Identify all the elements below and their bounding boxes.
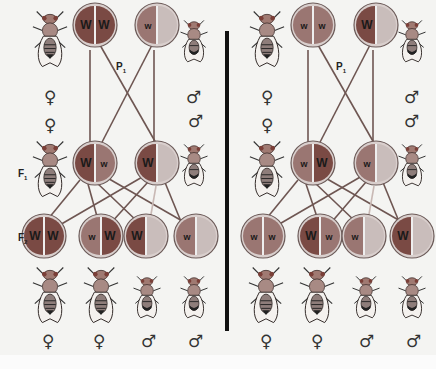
allele-left: w xyxy=(249,232,258,242)
chromosome-pair-right-f1-2: w xyxy=(354,141,398,185)
chromosome-pair-left-f1-2: W xyxy=(135,141,179,185)
chromosome-pair-left-p1-2: w xyxy=(135,3,179,47)
allele-left: W xyxy=(131,229,143,243)
allele-left: w xyxy=(299,21,308,31)
allele-right: W xyxy=(98,18,110,32)
f2-sex-symbol-8: ♂ xyxy=(406,333,421,350)
female-symbol-f1-right: ♀ xyxy=(261,117,273,134)
allele-left: W xyxy=(397,229,409,243)
label-f2: F2 xyxy=(18,232,27,245)
male-symbol-f1-left: ♂ xyxy=(188,113,203,130)
male-symbol-p1-right: ♂ xyxy=(404,89,419,106)
label-f1: F1 xyxy=(18,168,27,181)
allele-right: w xyxy=(267,232,276,242)
reciprocal-cross-diagram: WWwWwWWWwWWwwwWwWwwwWwwW xyxy=(0,0,436,369)
allele-left: W xyxy=(305,229,317,243)
allele-right: W xyxy=(316,156,328,170)
chromosome-pair-right-f2-4: W xyxy=(390,214,434,258)
chromosome-pair-right-f2-1: ww xyxy=(241,214,285,258)
male-symbol-f1-right: ♂ xyxy=(404,113,419,130)
allele-right: w xyxy=(324,232,333,242)
f2-sex-symbol-3: ♂ xyxy=(141,333,156,350)
f2-sex-symbol-2: ♀ xyxy=(93,333,105,350)
allele-left: W xyxy=(361,18,373,32)
chromosome-pair-right-f2-3: w xyxy=(342,214,386,258)
allele-right: w xyxy=(99,159,108,169)
chromosome-pair-left-f2-2: wW xyxy=(79,214,123,258)
female-symbol-p1-left: ♀ xyxy=(44,89,56,106)
label-p1-left: P1 xyxy=(116,61,126,74)
allele-right: W xyxy=(47,229,59,243)
allele-left: w xyxy=(87,232,96,242)
allele-left: W xyxy=(80,156,92,170)
cross-divider xyxy=(225,31,229,331)
allele-left: w xyxy=(350,232,359,242)
female-symbol-f1-left: ♀ xyxy=(44,117,56,134)
f2-sex-symbol-7: ♂ xyxy=(359,333,374,350)
chromosome-pair-right-p1-2: W xyxy=(354,3,398,47)
allele-right: W xyxy=(104,229,116,243)
chromosome-pair-right-p1-1: ww xyxy=(291,3,335,47)
f2-sex-symbol-4: ♂ xyxy=(188,333,203,350)
chromosome-pair-left-f2-3: W xyxy=(124,214,168,258)
chromosome-pair-left-f2-4: w xyxy=(174,214,218,258)
f2-sex-symbol-5: ♀ xyxy=(260,333,272,350)
chromosome-pair-right-f2-2: Ww xyxy=(298,214,342,258)
chromosome-pair-left-f1-1: Ww xyxy=(73,141,117,185)
chromosome-pair-left-f2-1: WW xyxy=(22,214,66,258)
female-symbol-p1-right: ♀ xyxy=(261,89,273,106)
f2-sex-symbol-1: ♀ xyxy=(42,333,54,350)
bottom-margin xyxy=(0,355,436,369)
allele-right: w xyxy=(317,21,326,31)
allele-left: W xyxy=(29,229,41,243)
chromosome-pair-right-f1-1: wW xyxy=(291,141,335,185)
allele-left: w xyxy=(299,159,308,169)
chromosome-pair-left-p1-1: WW xyxy=(73,3,117,47)
f2-sex-symbol-6: ♀ xyxy=(311,333,323,350)
allele-left: w xyxy=(143,21,152,31)
label-p1-right: P1 xyxy=(336,61,346,74)
allele-left: W xyxy=(80,18,92,32)
male-symbol-p1-left: ♂ xyxy=(186,89,201,106)
allele-left: W xyxy=(142,156,154,170)
allele-left: w xyxy=(182,232,191,242)
allele-left: w xyxy=(362,159,371,169)
